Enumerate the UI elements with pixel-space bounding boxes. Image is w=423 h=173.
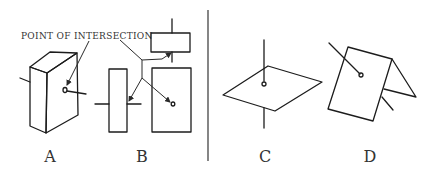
panel-label-b: B xyxy=(136,147,148,166)
panel-label-a: A xyxy=(43,147,56,166)
intersection-diagram: POINT OF INTERSECTION xyxy=(0,0,423,173)
point-of-intersection-caption: POINT OF INTERSECTION xyxy=(21,31,153,41)
panel-c-plane xyxy=(223,40,322,128)
intersection-point-c xyxy=(262,82,266,86)
panel-label-d: D xyxy=(364,147,377,166)
panel-a-box xyxy=(20,41,89,133)
panel-label-c: C xyxy=(259,147,271,166)
intersection-point-b xyxy=(171,102,175,106)
panel-d-folded-plane xyxy=(328,43,416,121)
intersection-point-a xyxy=(63,88,67,93)
